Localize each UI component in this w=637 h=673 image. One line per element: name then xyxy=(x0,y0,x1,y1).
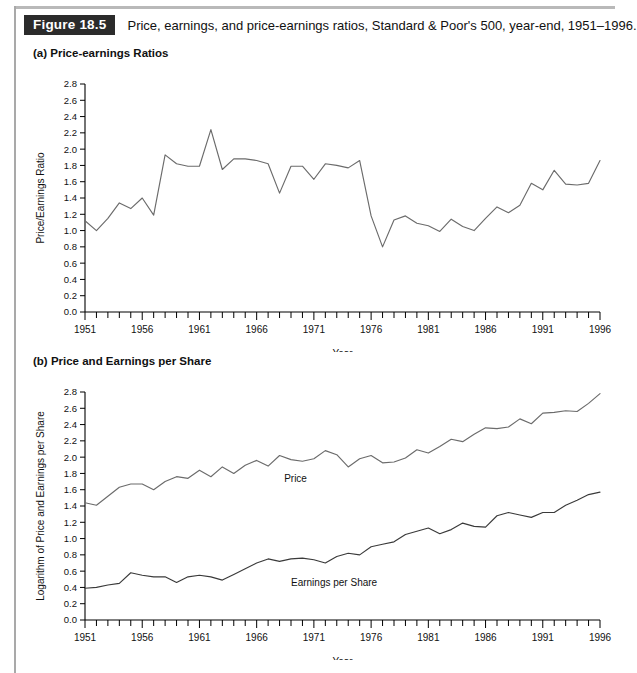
series-line-price xyxy=(85,394,600,506)
x-axis-tick-label: 1986 xyxy=(474,632,497,643)
y-axis-tick-label: 1.8 xyxy=(64,468,77,479)
y-axis-tick-label: 0.4 xyxy=(64,274,77,285)
y-axis-tick-label: 0.0 xyxy=(64,306,77,317)
y-axis-tick-label: 1.2 xyxy=(64,517,77,528)
page-left-edge xyxy=(14,6,16,673)
y-axis-tick-label: 2.6 xyxy=(64,95,77,106)
x-axis-tick-label: 1966 xyxy=(246,324,269,335)
y-axis-tick-label: 1.6 xyxy=(64,484,77,495)
y-axis-tick-label: 1.8 xyxy=(64,160,77,171)
y-axis-tick-label: 1.0 xyxy=(64,225,77,236)
y-axis-tick-label: 2.8 xyxy=(64,386,77,397)
x-axis-tick-label: 1986 xyxy=(474,324,497,335)
chart-price-earnings-ratios: 0.00.20.40.60.81.01.21.41.61.82.02.22.42… xyxy=(22,62,612,352)
y-axis-tick-label: 0.0 xyxy=(64,614,77,625)
y-axis-tick-label: 1.2 xyxy=(64,209,77,220)
y-axis-tick-label: 2.2 xyxy=(64,435,77,446)
x-axis-tick-label: 1996 xyxy=(589,632,612,643)
x-axis-tick-label: 1951 xyxy=(74,324,97,335)
x-axis-tick-label: 1991 xyxy=(532,632,555,643)
y-axis-tick-label: 0.2 xyxy=(64,290,77,301)
figure-number-badge: Figure 18.5 xyxy=(24,15,115,36)
y-axis-tick-label: 1.4 xyxy=(64,192,77,203)
y-axis-tick-label: 1.4 xyxy=(64,500,77,511)
y-axis-tick-label: 0.6 xyxy=(64,566,77,577)
series-line-earnings-per-share xyxy=(85,492,600,588)
y-axis-tick-label: 2.8 xyxy=(64,78,77,89)
x-axis-tick-label: 1981 xyxy=(417,632,440,643)
y-axis-tick-label: 0.8 xyxy=(64,241,77,252)
x-axis-tick-label: 1981 xyxy=(417,324,440,335)
chart-canvas: 0.00.20.40.60.81.01.21.41.61.82.02.22.42… xyxy=(22,62,612,352)
y-axis-tick-label: 0.4 xyxy=(64,582,77,593)
figure-header: Figure 18.5 Price, earnings, and price-e… xyxy=(24,14,604,36)
series-label-price: Price xyxy=(284,473,307,484)
x-axis-tick-label: 1976 xyxy=(360,324,383,335)
x-axis-tick-label: 1956 xyxy=(131,632,154,643)
x-axis-tick-label: 1956 xyxy=(131,324,154,335)
x-axis-title: Year xyxy=(332,656,353,660)
chart-canvas: 0.00.20.40.60.81.01.21.41.61.82.02.22.42… xyxy=(22,370,612,660)
y-axis-tick-label: 2.2 xyxy=(64,127,77,138)
figure-caption: Price, earnings, and price-earnings rati… xyxy=(127,18,636,33)
y-axis-tick-label: 0.8 xyxy=(64,549,77,560)
y-axis-tick-label: 2.0 xyxy=(64,452,77,463)
x-axis-tick-label: 1961 xyxy=(188,632,211,643)
x-axis-tick-label: 1961 xyxy=(188,324,211,335)
y-axis-tick-label: 1.6 xyxy=(64,176,77,187)
x-axis-tick-label: 1971 xyxy=(303,324,326,335)
y-axis-tick-label: 1.0 xyxy=(64,533,77,544)
x-axis-tick-label: 1971 xyxy=(303,632,326,643)
y-axis-title: Logarithm of Price and Earnings per Shar… xyxy=(35,411,46,601)
series-line-price-earnings-ratio xyxy=(85,130,600,247)
y-axis-title: Price/Earnings Ratio xyxy=(35,152,46,244)
x-axis-tick-label: 1976 xyxy=(360,632,383,643)
panel-a-title: (a) Price-earnings Ratios xyxy=(33,47,168,59)
y-axis-tick-label: 0.2 xyxy=(64,598,77,609)
y-axis-tick-label: 0.6 xyxy=(64,258,77,269)
y-axis-tick-label: 2.0 xyxy=(64,144,77,155)
y-axis-tick-label: 2.4 xyxy=(64,111,77,122)
y-axis-tick-label: 2.6 xyxy=(64,403,77,414)
x-axis-title: Year xyxy=(332,348,353,352)
x-axis-tick-label: 1996 xyxy=(589,324,612,335)
series-label-earnings-per-share: Earnings per Share xyxy=(291,577,378,588)
page-top-edge xyxy=(14,6,615,9)
x-axis-tick-label: 1951 xyxy=(74,632,97,643)
x-axis-tick-label: 1966 xyxy=(246,632,269,643)
panel-b-title: (b) Price and Earnings per Share xyxy=(33,355,211,367)
x-axis-tick-label: 1991 xyxy=(532,324,555,335)
y-axis-tick-label: 2.4 xyxy=(64,419,77,430)
chart-price-and-earnings-per-share: 0.00.20.40.60.81.01.21.41.61.82.02.22.42… xyxy=(22,370,612,660)
